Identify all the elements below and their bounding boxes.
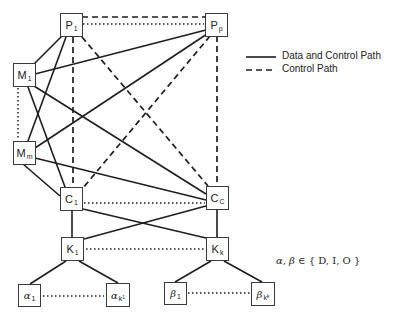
node-p1: P1 — [60, 13, 83, 37]
edge-mm-c1 — [23, 164, 60, 196]
node-betakk: βkk — [251, 282, 275, 306]
node-pp: Pp — [205, 13, 228, 37]
legend-dashed-label: Control Path — [282, 63, 338, 74]
edge-kk-betakk — [224, 261, 262, 282]
node-c1: C1 — [60, 187, 83, 211]
node-m1: M1 — [13, 63, 36, 87]
node-k1: K1 — [61, 237, 84, 261]
node-alphak1: αk1 — [106, 283, 130, 307]
edge-k1-alphak1 — [79, 261, 118, 283]
legend-solid-label: Data and Control Path — [282, 50, 381, 61]
edge-k1-alpha1 — [30, 261, 66, 284]
edge-m1-cc — [34, 86, 206, 194]
node-kk: Kk — [206, 237, 229, 261]
node-mm: Mm — [13, 141, 36, 165]
ctrl-pp-c1 — [83, 36, 210, 188]
ctrl-p1-cc — [82, 37, 208, 186]
node-alpha1: α1 — [18, 284, 41, 307]
node-cc: CC — [206, 186, 229, 210]
edge-kk-beta1 — [175, 261, 211, 282]
edge-p1-mm — [28, 37, 66, 141]
node-beta1: β1 — [164, 282, 187, 305]
set-membership-note: α, β ∈ { D, I, O } — [276, 255, 360, 266]
diagram-canvas — [0, 0, 396, 320]
